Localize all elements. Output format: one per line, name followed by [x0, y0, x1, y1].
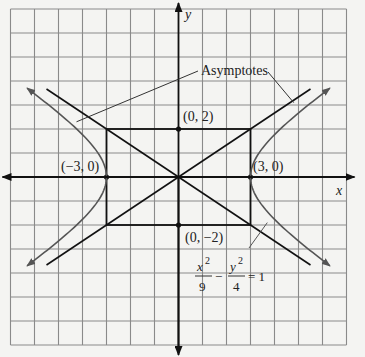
eq-term2-num: y	[228, 259, 236, 274]
point-label-top: (0, 2)	[183, 109, 214, 125]
right-branch-lower	[251, 177, 330, 266]
y-axis-label: y	[183, 7, 192, 22]
point-label-left: (−3, 0)	[61, 159, 100, 175]
left-branch-lower	[27, 177, 106, 266]
point-label-right: (3, 0)	[253, 159, 284, 175]
equation: x 2 9 − y 2 4 = 1	[195, 255, 265, 294]
asymptotes-label: Asymptotes	[201, 63, 268, 78]
eq-minus: −	[215, 269, 222, 284]
eq-equals: = 1	[248, 269, 265, 284]
point-label-bottom: (0, −2)	[185, 230, 224, 246]
hyperbola-diagram: y x Asymptotes (0, 2) (0, −2) (−3, 0) (3…	[0, 0, 365, 357]
asymptote-callout-right	[268, 72, 294, 103]
axes	[3, 3, 355, 355]
eq-term2-den: 4	[233, 279, 240, 294]
x-axis-label: x	[335, 183, 343, 198]
hyperbola-figure: y x Asymptotes (0, 2) (0, −2) (−3, 0) (3…	[0, 0, 365, 357]
eq-term1-den: 9	[199, 279, 206, 294]
eq-term1-exp: 2	[205, 255, 210, 266]
eq-term2-exp: 2	[238, 255, 243, 266]
eq-term1-num: x	[196, 259, 203, 274]
asymptote-callout-left	[77, 71, 199, 122]
